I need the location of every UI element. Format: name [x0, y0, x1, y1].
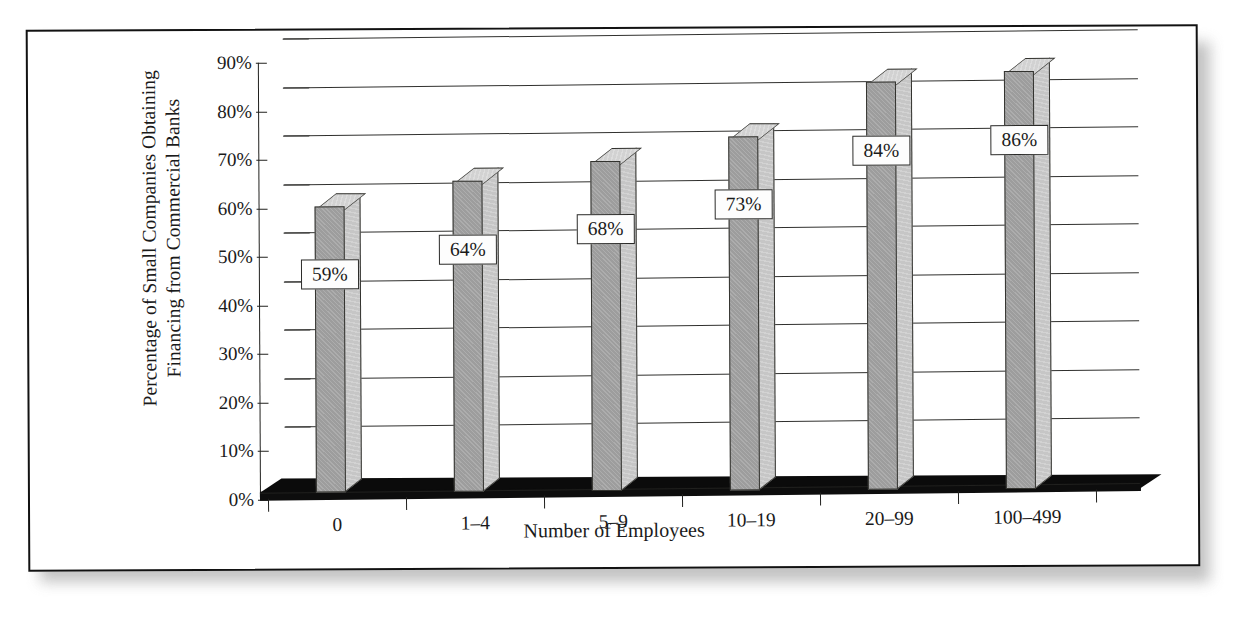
bar-column[interactable]: 59%: [315, 206, 346, 493]
gridline-riser: [259, 378, 311, 395]
y-axis-tick-label: 40%: [189, 296, 253, 315]
bar-side-face: [619, 147, 638, 491]
y-axis-ticks: 0%10%20%30%40%50%60%70%80%90%: [180, 29, 254, 469]
y-axis-line: [258, 63, 261, 500]
bar-side-face: [895, 68, 914, 489]
chart-canvas: Percentage of Small Companies Obtaining …: [26, 24, 1201, 572]
gridline-horizontal: [283, 29, 1138, 39]
bar-column[interactable]: 73%: [728, 136, 760, 491]
x-axis-tick-mark: [544, 496, 545, 509]
gridline-riser: [259, 184, 311, 201]
gridline-riser: [260, 427, 312, 444]
x-axis-tick-mark: [682, 494, 683, 507]
bar-value-label: 59%: [301, 259, 359, 289]
bar-column[interactable]: 64%: [452, 181, 484, 492]
x-axis-tick-mark: [268, 499, 269, 512]
bar-value-label: 73%: [715, 189, 773, 219]
bar-side-face: [481, 168, 499, 492]
figure-root: Percentage of Small Companies Obtaining …: [0, 0, 1258, 624]
gridlines-group: [258, 40, 1138, 44]
bar-column[interactable]: 68%: [590, 161, 622, 491]
gridline-riser: [259, 233, 311, 250]
bar-value-label: 68%: [577, 214, 635, 244]
bar-value-label: 84%: [852, 135, 910, 165]
x-axis-title: Number of Employees: [28, 516, 1200, 545]
y-axis-title-line1: Percentage of Small Companies Obtaining: [138, 70, 161, 407]
y-axis-tick-label: 20%: [189, 393, 253, 412]
y-axis-tick-label: 70%: [188, 150, 252, 169]
gridline-riser: [258, 87, 310, 104]
bar-front-face: [452, 181, 484, 492]
plot-area: 59%64%68%73%84%86%: [258, 40, 1140, 494]
y-axis-tick-label: 80%: [188, 101, 252, 120]
bar-side-face: [757, 122, 776, 490]
bar-column[interactable]: 86%: [1004, 71, 1036, 489]
y-axis-tick-label: 50%: [189, 247, 253, 266]
bar-value-label: 64%: [439, 234, 497, 264]
bars-group: 59%64%68%73%84%86%: [258, 40, 1138, 44]
bar-side-face: [344, 192, 362, 492]
x-axis-tick-mark: [958, 491, 959, 504]
x-axis-tick-mark: [820, 493, 821, 506]
gridline: [258, 51, 1138, 55]
y-axis-tick-label: 90%: [188, 53, 252, 72]
bar-front-face: [590, 161, 622, 491]
bar-value-label: 86%: [990, 125, 1048, 155]
y-axis-tick-label: 30%: [189, 344, 253, 363]
gridline-riser: [259, 330, 311, 347]
bar-side-face: [1033, 58, 1052, 489]
bar-front-face: [315, 206, 346, 493]
gridline-riser: [258, 38, 310, 55]
x-axis-tick-mark: [1096, 490, 1097, 503]
bar-column[interactable]: 84%: [866, 82, 898, 490]
x-axis-tick-mark: [406, 497, 407, 510]
y-axis-tick-label: 10%: [190, 441, 254, 460]
gridline-riser: [258, 136, 310, 153]
y-axis-tick-label: 60%: [189, 198, 253, 217]
y-axis-tick-label: 0%: [190, 490, 254, 509]
